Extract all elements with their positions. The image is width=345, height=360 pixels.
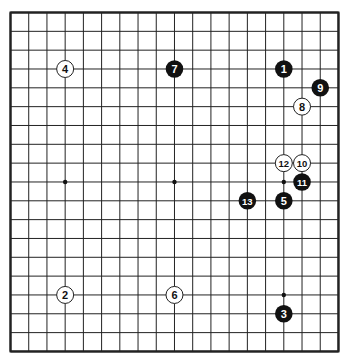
star-point (63, 180, 67, 184)
move-number: 13 (242, 196, 253, 207)
move-number: 9 (317, 82, 323, 94)
white-stone-10[interactable]: 10 (294, 155, 311, 172)
white-stone-2[interactable]: 2 (57, 286, 74, 303)
white-stone-8[interactable]: 8 (294, 98, 311, 115)
black-stone-5[interactable]: 5 (275, 192, 293, 210)
black-stone-11[interactable]: 11 (293, 173, 311, 191)
white-stone-6[interactable]: 6 (166, 286, 183, 303)
move-number: 2 (62, 289, 68, 301)
move-number: 7 (171, 63, 177, 75)
move-number: 3 (281, 308, 287, 320)
go-board[interactable]: 12345678910111213 (0, 0, 345, 360)
star-point (282, 293, 286, 297)
black-stone-7[interactable]: 7 (166, 60, 184, 78)
move-number: 10 (297, 158, 308, 169)
white-stone-4[interactable]: 4 (57, 60, 74, 77)
black-stone-1[interactable]: 1 (275, 60, 293, 78)
move-number: 4 (62, 63, 69, 75)
black-stone-13[interactable]: 13 (239, 192, 257, 210)
move-number: 5 (281, 195, 287, 207)
star-point (172, 180, 176, 184)
star-point (282, 180, 286, 184)
move-number: 11 (297, 177, 308, 188)
white-stone-12[interactable]: 12 (275, 155, 292, 172)
move-number: 6 (171, 289, 177, 301)
move-number: 8 (299, 101, 305, 113)
move-number: 12 (279, 158, 290, 169)
black-stone-3[interactable]: 3 (275, 305, 293, 323)
move-number: 1 (281, 63, 287, 75)
black-stone-9[interactable]: 9 (311, 79, 329, 97)
